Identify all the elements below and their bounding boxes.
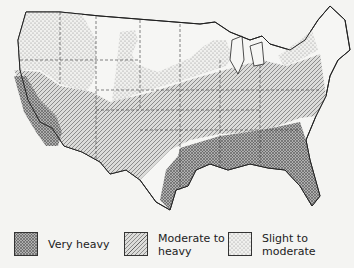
very-heavy-swatch bbox=[14, 232, 38, 256]
legend-item-very-heavy: Very heavy bbox=[14, 232, 109, 256]
legend-label: Very heavy bbox=[48, 238, 109, 251]
legend-label-line1: Slight to bbox=[262, 232, 316, 245]
legend-item-slight-to-moderate: Slight to moderate bbox=[228, 232, 316, 258]
legend-label-line2: moderate bbox=[262, 245, 316, 258]
legend-label-line1: Moderate to bbox=[158, 232, 225, 245]
legend-item-moderate-to-heavy: Moderate to heavy bbox=[124, 232, 225, 258]
legend-label-line2: heavy bbox=[158, 245, 225, 258]
us-hazard-map bbox=[0, 0, 354, 222]
moderate-to-heavy-swatch bbox=[124, 232, 148, 256]
legend: Very heavy Moderate to heavy Slight to m… bbox=[0, 228, 354, 268]
slight-to-moderate-swatch bbox=[228, 232, 252, 256]
